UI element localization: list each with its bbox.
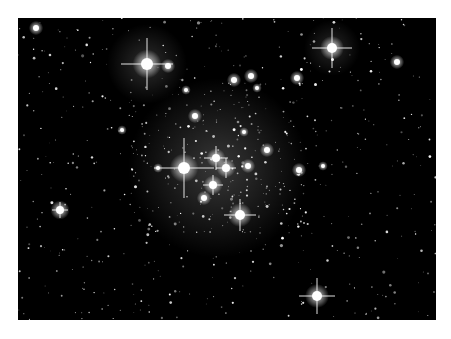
star-cluster-photo bbox=[18, 18, 436, 320]
starfield bbox=[18, 18, 436, 320]
